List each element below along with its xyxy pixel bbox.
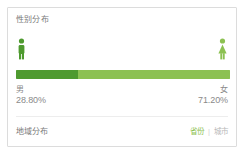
- bar-segment-male: [16, 70, 78, 79]
- legend-female: 女 71.20%: [198, 84, 228, 106]
- legend-male: 男 28.80%: [16, 84, 46, 106]
- region-distribution-header: 地域分布 省份 | 城市: [16, 126, 228, 138]
- legend-female-label: 女: [198, 84, 228, 95]
- screenshot-root: 性别分布: [0, 0, 245, 160]
- page-title: 性别分布: [16, 15, 49, 25]
- gender-icon-row: [8, 38, 236, 64]
- region-link-city[interactable]: 城市: [214, 127, 228, 136]
- gender-distribution-card: 性别分布: [7, 7, 237, 147]
- region-link-province[interactable]: 省份: [190, 127, 204, 136]
- region-section-title: 地域分布: [16, 126, 48, 137]
- region-toggle-links: 省份 | 城市: [190, 126, 228, 137]
- male-person-icon: [16, 38, 27, 60]
- legend-female-value: 71.20%: [198, 95, 228, 106]
- gender-ratio-bar: [16, 70, 230, 79]
- legend-male-label: 男: [16, 84, 46, 95]
- section-divider: [16, 116, 228, 117]
- legend-male-value: 28.80%: [16, 95, 46, 106]
- female-person-icon: [217, 38, 228, 60]
- region-link-separator: |: [208, 127, 210, 136]
- bar-segment-female: [78, 70, 230, 79]
- gender-legend: 男 28.80% 女 71.20%: [16, 84, 228, 110]
